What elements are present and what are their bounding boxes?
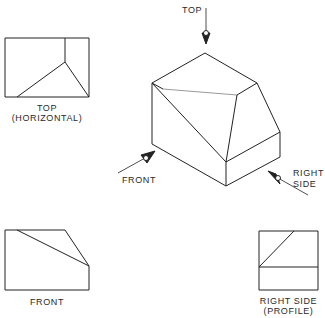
front-arrow [118, 151, 155, 173]
right-side-view-sublabel: (PROFILE) [250, 306, 325, 316]
front-view-drawing [5, 230, 89, 290]
orthographic-projection-diagram [0, 0, 325, 318]
isometric-block [152, 53, 280, 186]
top-view-drawing [5, 38, 89, 97]
top-view-label: TOP [5, 103, 89, 113]
front-arrow-label: FRONT [122, 175, 156, 185]
top-arrow [202, 8, 210, 44]
right-side-view-label: RIGHT SIDE [250, 296, 325, 306]
right-side-view-drawing [259, 231, 318, 290]
top-view-sublabel: (HORIZONTAL) [0, 113, 94, 123]
front-view-label: FRONT [5, 297, 89, 307]
right-side-arrow-label-1: RIGHT [293, 168, 324, 178]
top-arrow-label: TOP [182, 5, 202, 15]
right-side-arrow-label-2: SIDE [293, 179, 316, 189]
